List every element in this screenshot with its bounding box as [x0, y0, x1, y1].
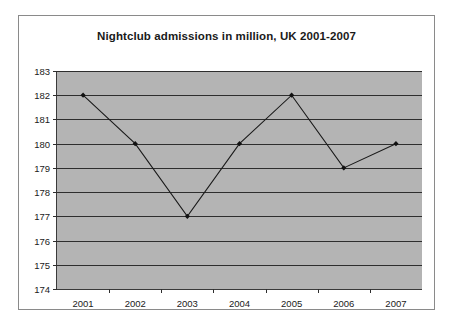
y-axis-tick-label: 174 — [34, 284, 50, 295]
y-axis-tick-label: 183 — [34, 66, 50, 77]
x-axis-tick-mark — [266, 289, 267, 293]
series-polyline — [83, 95, 396, 216]
x-axis-tick-label: 2005 — [281, 298, 302, 309]
plot-area: 183182181180179178177176175174 200120022… — [56, 71, 422, 290]
y-axis-tick-label: 176 — [34, 235, 50, 246]
x-axis-tick-label: 2006 — [333, 298, 354, 309]
data-series-line — [57, 71, 422, 289]
x-axis-tick-mark — [213, 289, 214, 293]
x-axis-tick-label: 2003 — [177, 298, 198, 309]
x-axis-tick-mark — [109, 289, 110, 293]
y-axis-tick-label: 179 — [34, 162, 50, 173]
data-point-marker — [393, 141, 398, 146]
y-axis-tick-label: 181 — [34, 114, 50, 125]
chart-figure: Nightclub admissions in million, UK 2001… — [18, 15, 435, 310]
x-axis-tick-mark — [161, 289, 162, 293]
y-axis-tick-label: 180 — [34, 138, 50, 149]
x-axis-tick-label: 2004 — [229, 298, 250, 309]
series-markers — [80, 93, 398, 219]
chart-title: Nightclub admissions in million, UK 2001… — [19, 30, 434, 42]
x-axis-tick-label: 2002 — [125, 298, 146, 309]
x-axis-tick-label: 2001 — [72, 298, 93, 309]
x-axis-tick-label: 2007 — [385, 298, 406, 309]
y-axis-tick-label: 182 — [34, 90, 50, 101]
y-axis-tick-label: 178 — [34, 187, 50, 198]
x-axis-tick-mark — [370, 289, 371, 293]
y-axis-tick-label: 177 — [34, 211, 50, 222]
y-axis-tick-mark — [53, 289, 57, 290]
x-axis-tick-mark — [318, 289, 319, 293]
y-axis-tick-label: 175 — [34, 259, 50, 270]
